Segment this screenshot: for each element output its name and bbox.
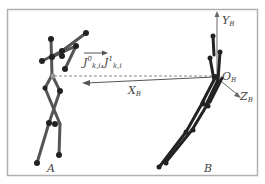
vector-label: J0k,i,J1k,i [83, 56, 122, 70]
origin-label: OB [222, 71, 236, 84]
y-axis-arrowhead-icon [215, 11, 220, 17]
figure-a-label: A [47, 163, 55, 174]
x-axis-label: XB [128, 85, 141, 98]
skeleton-b [160, 36, 222, 166]
x-axis-line [86, 77, 214, 83]
diagram-canvas: J0k,i,J1k,i YB OB XB ZB A B [0, 0, 265, 184]
x-axis-arrowhead-icon [82, 80, 90, 86]
figure-b-label: B [204, 163, 212, 174]
z-axis-label: ZB [240, 91, 253, 104]
y-axis-label: YB [222, 15, 234, 28]
